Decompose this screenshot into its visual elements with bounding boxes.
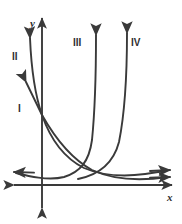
curve-label-ii: II xyxy=(12,51,18,62)
curve-label-iv: IV xyxy=(131,37,141,48)
x-axis-label: x xyxy=(166,191,173,203)
curves-group xyxy=(14,33,170,179)
curve-i xyxy=(26,82,168,179)
curve-ii xyxy=(30,38,168,175)
decay-upper-tail xyxy=(150,170,170,171)
curve-iv xyxy=(78,33,127,179)
decay-left-tail xyxy=(14,172,34,173)
curve-label-iii: III xyxy=(73,37,82,48)
curve-label-i: I xyxy=(18,103,21,114)
curve-iii xyxy=(16,35,96,178)
exponential-curves-figure: y x I II III IV xyxy=(0,0,182,224)
y-axis-label: y xyxy=(28,17,35,29)
decay-lower-tail xyxy=(150,177,170,178)
